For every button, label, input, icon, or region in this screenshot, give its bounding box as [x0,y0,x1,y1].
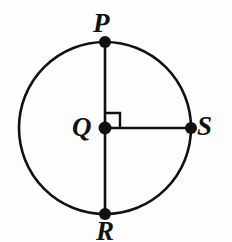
point-dot-Q [99,122,112,135]
point-dot-S [185,122,197,134]
point-label-P: P [93,10,110,37]
point-label-S: S [197,113,212,140]
point-label-R: R [96,218,114,242]
geometry-figure-container: P S Q R [0,0,232,242]
point-label-Q: Q [72,114,92,141]
